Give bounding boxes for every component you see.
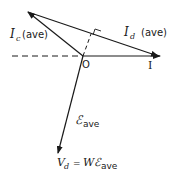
ic-subscript: c — [16, 34, 21, 43]
ic-suffix: (ave) — [22, 29, 48, 40]
ic-label: I c (ave) — [9, 27, 48, 43]
vd-subscript: d — [64, 162, 69, 171]
ic-symbol: I — [9, 27, 15, 41]
vd-rhs: Wℰ — [83, 156, 102, 169]
e-subscript: ave — [83, 119, 100, 129]
e-ave-vector — [58, 56, 83, 153]
vd-rhs-subscript: ave — [101, 161, 118, 171]
vd-equals: = — [73, 158, 81, 168]
vd-equation: V d = Wℰ ave — [57, 156, 118, 171]
origin-label: O — [82, 59, 90, 70]
id-symbol: I — [123, 25, 129, 39]
reference-i-label: I — [148, 59, 152, 72]
e-ave-label: ℰ ave — [75, 113, 100, 129]
id-label: I d (ave) — [123, 25, 167, 41]
phasor-diagram: I c (ave) I d (ave) O I ℰ ave V d = Wℰ a… — [0, 0, 183, 176]
id-suffix: (ave) — [141, 27, 167, 38]
id-subscript: d — [130, 32, 135, 41]
perpendicular-dashed-line — [83, 34, 91, 56]
